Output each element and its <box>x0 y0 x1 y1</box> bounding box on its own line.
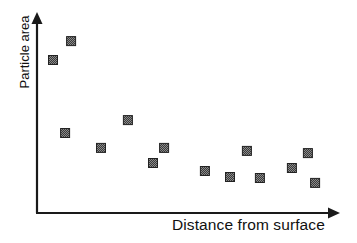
data-point-square-icon <box>303 149 312 158</box>
y-axis-label: Particle area <box>17 16 32 89</box>
data-point-square-icon <box>123 116 132 125</box>
y-axis <box>32 12 43 213</box>
data-point-square-icon <box>242 146 251 155</box>
data-point-square-icon <box>61 129 70 138</box>
x-axis-arrowhead-icon <box>328 208 340 219</box>
data-point-square-icon <box>226 173 235 182</box>
data-point-square-icon <box>287 164 296 173</box>
data-point-square-icon <box>97 143 106 152</box>
data-point-square-icon <box>149 159 158 168</box>
data-point-square-icon <box>49 56 58 65</box>
data-point-square-icon <box>255 174 264 183</box>
data-point-square-icon <box>67 37 76 46</box>
data-points <box>49 37 320 188</box>
scatter-chart <box>0 0 357 243</box>
data-point-square-icon <box>200 167 209 176</box>
y-axis-arrowhead-icon <box>32 12 43 24</box>
x-axis-label: Distance from surface <box>172 216 325 234</box>
data-point-square-icon <box>311 178 320 187</box>
data-point-square-icon <box>160 143 169 152</box>
